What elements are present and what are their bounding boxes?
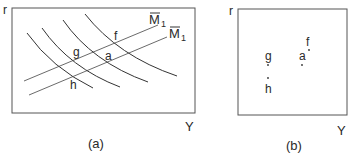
svg-text:1: 1 bbox=[161, 19, 166, 29]
figure: r Y (a) M 1 M 1 f g a h r Y (b) bbox=[0, 0, 352, 155]
panel-b-r-label: r bbox=[229, 4, 233, 18]
point-f: f bbox=[306, 35, 310, 51]
panel-a-r-label: r bbox=[3, 3, 7, 17]
panel-b-y-label: Y bbox=[337, 123, 346, 138]
line-lower bbox=[29, 37, 167, 95]
curve-1 bbox=[27, 33, 93, 88]
svg-text:h: h bbox=[265, 82, 272, 96]
point-a-label: a bbox=[105, 49, 112, 63]
panel-b-frame bbox=[238, 9, 347, 115]
svg-text:g: g bbox=[265, 49, 272, 63]
point-h-label: h bbox=[70, 78, 77, 92]
label-lower-line: M 1 bbox=[169, 26, 186, 43]
label-upper-line: M 1 bbox=[149, 12, 166, 29]
panel-a-y-label: Y bbox=[185, 119, 194, 134]
panel-a: r Y (a) M 1 M 1 f g a h bbox=[3, 3, 195, 151]
panel-a-frame bbox=[12, 8, 195, 113]
point-h: h bbox=[265, 77, 272, 96]
svg-text:a: a bbox=[299, 49, 306, 63]
point-a: a bbox=[299, 49, 306, 66]
svg-text:f: f bbox=[306, 35, 310, 49]
panel-a-caption: (a) bbox=[88, 136, 104, 151]
panel-b: r Y (b) f g a h bbox=[229, 4, 347, 153]
point-g: g bbox=[265, 49, 272, 66]
svg-text:M: M bbox=[149, 12, 160, 27]
point-g-label: g bbox=[73, 45, 80, 59]
point-f-label: f bbox=[114, 29, 118, 43]
svg-text:M: M bbox=[169, 26, 180, 41]
svg-text:1: 1 bbox=[181, 33, 186, 43]
panel-b-caption: (b) bbox=[286, 138, 302, 153]
